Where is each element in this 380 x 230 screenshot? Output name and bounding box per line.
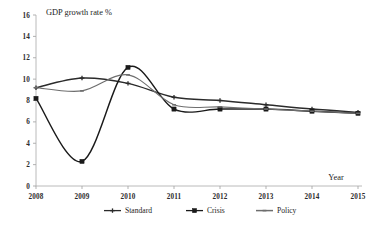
series-markers-layer — [34, 65, 361, 163]
y-tick-label: 0 — [26, 183, 30, 191]
chart-legend: StandardCrisisPolicy — [104, 206, 297, 215]
legend-label-policy: Policy — [277, 206, 297, 215]
x-tick-label: 2010 — [121, 193, 136, 201]
legend-marker-crisis — [192, 209, 196, 213]
chart-title: GDP growth rate % — [46, 8, 112, 17]
series-line-policy — [36, 75, 358, 114]
x-tick-label: 2012 — [213, 193, 228, 201]
x-tick-label: 2008 — [29, 193, 44, 201]
legend-label-standard: Standard — [125, 206, 152, 215]
x-tick-label: 2011 — [167, 193, 182, 201]
y-tick-label: 10 — [23, 76, 31, 84]
y-tick-label: 6 — [26, 118, 30, 126]
x-tick-label: 2013 — [259, 193, 274, 201]
gdp-growth-line-chart: 0246810121416 20082009201020112012201320… — [0, 0, 380, 230]
x-tick-label: 2014 — [305, 193, 320, 201]
series-marker-crisis — [126, 65, 130, 69]
x-axis-tickmarks — [36, 186, 358, 189]
y-tick-label: 16 — [23, 12, 31, 20]
y-tick-label: 14 — [23, 33, 31, 41]
y-tick-label: 12 — [23, 54, 31, 62]
x-axis-tick-labels: 20082009201020112012201320142015 — [29, 193, 366, 201]
x-axis-title: Year — [328, 173, 344, 182]
x-tick-label: 2015 — [351, 193, 366, 201]
series-marker-crisis — [80, 159, 84, 163]
x-tick-label: 2009 — [75, 193, 90, 201]
series-line-crisis — [36, 66, 358, 162]
series-marker-crisis — [172, 107, 176, 111]
y-tick-label: 4 — [26, 140, 30, 148]
chart-container: 0246810121416 20082009201020112012201320… — [0, 0, 380, 230]
y-axis-tick-labels: 0246810121416 — [23, 12, 31, 191]
y-tick-label: 2 — [26, 161, 30, 169]
series-marker-crisis — [34, 96, 38, 100]
y-tick-label: 8 — [26, 97, 30, 105]
legend-label-crisis: Crisis — [207, 206, 225, 215]
series-layer — [36, 66, 358, 162]
